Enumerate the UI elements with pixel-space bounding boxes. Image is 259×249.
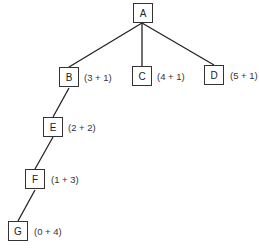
tree-edges	[0, 0, 259, 249]
edge-e-f	[35, 137, 53, 169]
tree-diagram: A B (3 + 1) C (4 + 1) D (5 + 1) E (2 + 2…	[0, 0, 259, 249]
node-b-label: B	[66, 72, 73, 83]
node-f-label: F	[32, 174, 38, 185]
node-c-annotation: (4 + 1)	[157, 71, 185, 82]
node-d-annotation: (5 + 1)	[230, 70, 258, 81]
node-b-annotation: (3 + 1)	[84, 72, 112, 83]
node-c: C	[132, 66, 152, 86]
node-e: E	[43, 117, 63, 137]
node-a-label: A	[140, 8, 147, 19]
node-a: A	[133, 3, 153, 23]
node-f: F	[25, 169, 45, 189]
node-c-label: C	[138, 71, 145, 82]
node-g: G	[8, 221, 28, 241]
edge-f-g	[18, 190, 35, 221]
node-e-label: E	[50, 122, 57, 133]
node-g-label: G	[14, 226, 22, 237]
node-d-label: D	[210, 70, 217, 81]
node-d: D	[204, 65, 224, 85]
edge-a-d	[142, 23, 214, 65]
edge-a-b	[69, 23, 142, 67]
edge-b-e	[53, 88, 69, 117]
node-f-annotation: (1 + 3)	[51, 174, 79, 185]
node-g-annotation: (0 + 4)	[34, 226, 62, 237]
node-b: B	[59, 67, 79, 87]
node-e-annotation: (2 + 2)	[68, 122, 96, 133]
